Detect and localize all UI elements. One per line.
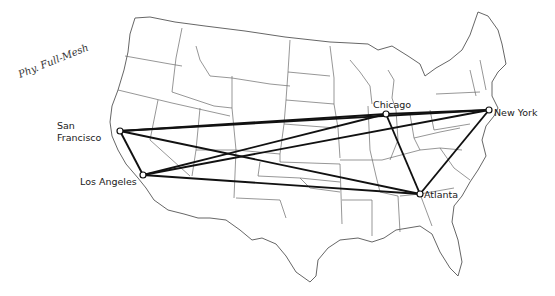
- node-new-york[interactable]: New York: [486, 107, 538, 118]
- node-marker-icon: [417, 191, 423, 197]
- handwritten-note: Phy. Full-Mesh: [16, 42, 90, 81]
- node-marker-icon: [117, 128, 123, 134]
- node-marker-icon: [383, 111, 389, 117]
- label-new-york: New York: [494, 107, 538, 118]
- label-san: San: [57, 120, 75, 131]
- node-atlanta[interactable]: Atlanta: [417, 189, 458, 200]
- label-los-angeles: Los Angeles: [80, 176, 137, 187]
- us-map: [110, 12, 506, 282]
- label-francisco: Francisco: [57, 132, 102, 143]
- node-marker-icon: [140, 172, 146, 178]
- us-outline: [110, 12, 506, 282]
- label-chicago: Chicago: [373, 99, 411, 110]
- label-atlanta: Atlanta: [424, 189, 458, 200]
- node-marker-icon: [486, 107, 492, 113]
- us-network-map: Phy. Full-Mesh San Francisco Los Angeles: [0, 0, 555, 296]
- note-text: Phy. Full-Mesh: [16, 42, 90, 81]
